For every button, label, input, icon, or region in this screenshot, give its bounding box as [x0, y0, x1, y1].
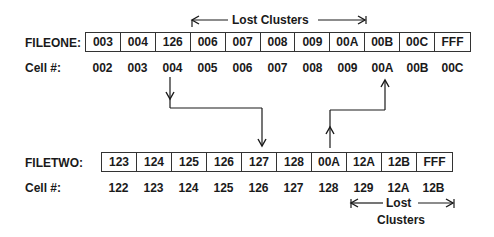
fileone-label: FILEONE:	[25, 36, 81, 50]
cell-number: 00C	[435, 61, 470, 75]
filetwo-cell: 127	[242, 153, 277, 171]
lost-label-bottom: Lost	[386, 196, 411, 210]
fileone-cell-numbers: 002 003 004 005 006 007 008 009 00A 00B …	[85, 61, 470, 75]
clusters-label-bottom: Clusters	[377, 213, 425, 227]
filetwo-cell: 123	[102, 153, 137, 171]
fileone-cell: 009	[295, 33, 330, 51]
cell-number: 00B	[400, 61, 435, 75]
filetwo-cell: 125	[172, 153, 207, 171]
fileone-cell: 126	[156, 33, 191, 51]
filetwo-cell: 12B	[382, 153, 417, 171]
cell-number: 009	[330, 61, 365, 75]
cell-number: 126	[241, 181, 276, 195]
filetwo-cell: 128	[277, 153, 312, 171]
filetwo-cell: FFF	[417, 153, 452, 171]
cell-number: 003	[120, 61, 155, 75]
fileone-cell: FFF	[435, 33, 470, 51]
fileone-cell-label: Cell #:	[25, 61, 61, 75]
fileone-cell: 00B	[365, 33, 400, 51]
fileone-cell: 008	[261, 33, 296, 51]
cell-number: 124	[171, 181, 206, 195]
filetwo-cell: 126	[207, 153, 242, 171]
fileone-cell: 00C	[400, 33, 435, 51]
cell-number: 008	[295, 61, 330, 75]
cell-number: 00A	[365, 61, 400, 75]
cell-number: 125	[206, 181, 241, 195]
fileone-cell: 004	[121, 33, 156, 51]
cell-number: 007	[260, 61, 295, 75]
cell-number: 122	[101, 181, 136, 195]
cell-number: 005	[190, 61, 225, 75]
fileone-chain: 003 004 126 006 007 008 009 00A 00B 00C …	[85, 32, 471, 52]
filetwo-label: FILETWO:	[25, 156, 83, 170]
cell-number: 006	[225, 61, 260, 75]
filetwo-cell: 12A	[347, 153, 382, 171]
cell-number: 128	[311, 181, 346, 195]
cell-number: 002	[85, 61, 120, 75]
cell-number: 129	[346, 181, 381, 195]
lost-clusters-label-top: Lost Clusters	[232, 13, 309, 27]
filetwo-cell-label: Cell #:	[25, 181, 61, 195]
fileone-cell: 007	[226, 33, 261, 51]
cell-number: 123	[136, 181, 171, 195]
cell-number: 127	[276, 181, 311, 195]
filetwo-cell: 124	[137, 153, 172, 171]
cell-number: 004	[155, 61, 190, 75]
fileone-cell: 003	[86, 33, 121, 51]
fileone-cell: 00A	[330, 33, 365, 51]
filetwo-chain: 123 124 125 126 127 128 00A 12A 12B FFF	[101, 152, 453, 172]
cell-number: 12B	[416, 181, 451, 195]
filetwo-cell: 00A	[312, 153, 347, 171]
cell-number: 12A	[381, 181, 416, 195]
filetwo-cell-numbers: 122 123 124 125 126 127 128 129 12A 12B	[101, 181, 451, 195]
fileone-cell: 006	[191, 33, 226, 51]
